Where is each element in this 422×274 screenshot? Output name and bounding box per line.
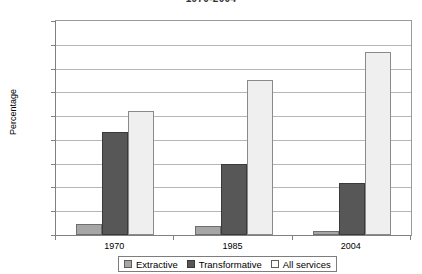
legend-item-transformative[interactable]: Transformative <box>187 259 262 270</box>
bar-all-services-1985 <box>247 80 273 235</box>
y-tick-mark <box>51 45 55 46</box>
x-tick-mark <box>410 235 411 240</box>
y-tick-mark <box>51 164 55 165</box>
bar-extractive-1985 <box>195 226 221 235</box>
bar-all-services-2004 <box>365 52 391 235</box>
x-axis: 197019852004 <box>55 235 412 251</box>
legend-item-extractive[interactable]: Extractive <box>124 259 178 270</box>
y-tick-mark <box>51 140 55 141</box>
x-tick-mark <box>173 235 174 240</box>
x-tick-label-1970: 1970 <box>74 241 154 251</box>
y-gridline <box>56 116 411 117</box>
legend-label: Transformative <box>199 259 262 270</box>
bar-transformative-1970 <box>102 132 128 235</box>
y-gridline <box>56 92 411 93</box>
x-tick-label-1985: 1985 <box>193 241 273 251</box>
y-tick-mark <box>51 92 55 93</box>
bar-extractive-1970 <box>76 224 102 235</box>
legend-swatch-icon <box>124 260 132 268</box>
plot-area: 0102030405060708090 <box>55 20 412 236</box>
x-tick-mark <box>55 235 56 240</box>
legend-label: Extractive <box>136 259 178 270</box>
legend-swatch-icon <box>271 260 279 268</box>
bar-chart: 1970-2004 Percentage 0102030405060708090… <box>0 0 422 274</box>
y-axis-label: Percentage <box>8 72 18 152</box>
bar-transformative-1985 <box>221 164 247 235</box>
x-tick-label-2004: 2004 <box>311 241 391 251</box>
legend-swatch-icon <box>187 260 195 268</box>
bar-all-services-1970 <box>128 111 154 235</box>
legend-item-all-services[interactable]: All services <box>271 259 331 270</box>
y-gridline <box>56 69 411 70</box>
y-gridline <box>56 45 411 46</box>
y-tick-mark <box>51 187 55 188</box>
chart-legend: ExtractiveTransformativeAll services <box>118 256 337 272</box>
y-tick-mark <box>51 69 55 70</box>
bar-transformative-2004 <box>339 183 365 235</box>
legend-label: All services <box>283 259 331 270</box>
y-tick-mark <box>51 211 55 212</box>
chart-title: 1970-2004 <box>0 0 422 4</box>
x-tick-mark <box>292 235 293 240</box>
y-tick-mark <box>51 116 55 117</box>
y-tick-mark <box>51 21 55 22</box>
